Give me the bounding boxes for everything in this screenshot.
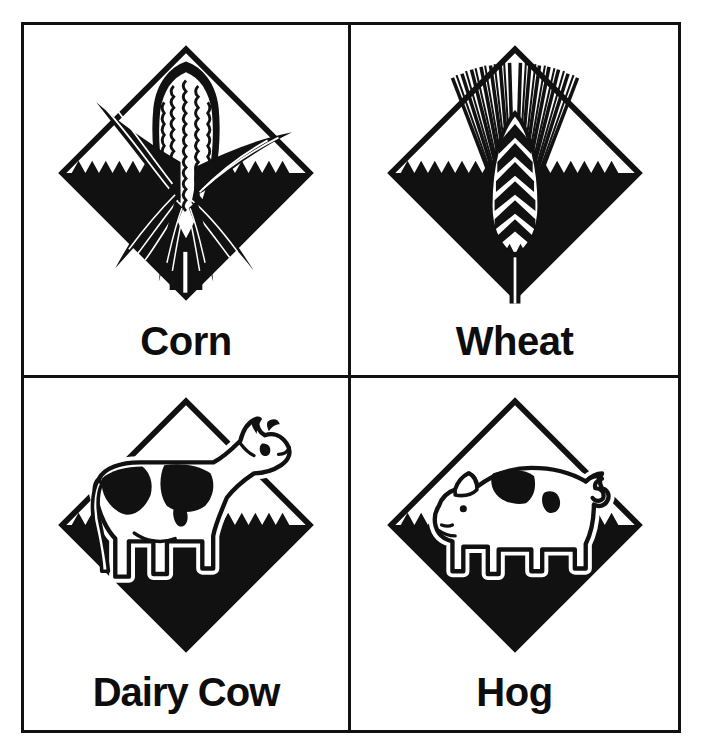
poster-sheet: Corn xyxy=(0,0,702,740)
panel-caption-dairy-cow: Dairy Cow xyxy=(24,672,348,730)
emblem-grid: Corn xyxy=(21,22,681,733)
dairy-cow-diamond-emblem xyxy=(24,378,348,673)
wheat-diamond-emblem xyxy=(351,25,678,321)
corn-diamond-emblem xyxy=(24,25,348,321)
panel-caption-hog: Hog xyxy=(351,672,678,730)
panel-dairy-cow[interactable]: Dairy Cow xyxy=(24,378,351,731)
panel-hog[interactable]: Hog xyxy=(351,378,678,731)
hog-diamond-emblem xyxy=(351,378,678,673)
panel-caption-corn: Corn xyxy=(24,321,348,375)
panel-corn[interactable]: Corn xyxy=(24,25,351,378)
panel-wheat[interactable]: Wheat xyxy=(351,25,678,378)
panel-caption-wheat: Wheat xyxy=(351,321,678,375)
